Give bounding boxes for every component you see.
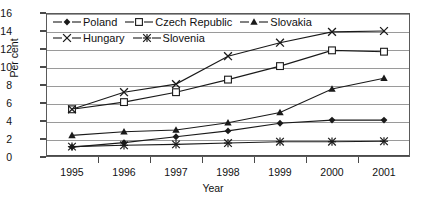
filled-diamond-marker [277, 120, 284, 127]
filled-diamond-marker [64, 19, 71, 26]
asterisk-marker [224, 139, 232, 147]
x-tick-label: 2001 [362, 166, 406, 178]
legend-item-poland[interactable]: Poland [52, 15, 124, 29]
open-square-marker [121, 99, 128, 106]
legend-item-hungary[interactable]: Hungary [52, 31, 132, 45]
filled-triangle-marker [251, 18, 258, 25]
x-tick-label: 1997 [154, 166, 198, 178]
x-tick-label: 2000 [310, 166, 354, 178]
asterisk-icon [132, 31, 162, 45]
x-tick-label: 1996 [102, 166, 146, 178]
x-tick-mark [98, 157, 99, 163]
legend-label: Poland [82, 16, 124, 28]
filled-diamond-marker [225, 128, 232, 135]
open-square-marker [136, 19, 143, 26]
series-slovenia [68, 137, 388, 151]
asterisk-marker [380, 137, 388, 145]
y-tick-label: 12 [0, 44, 12, 54]
filled-triangle-marker [276, 109, 283, 116]
filled-diamond-icon [52, 15, 82, 29]
y-tick-label: 2 [0, 134, 12, 144]
asterisk-marker [142, 34, 150, 42]
asterisk-marker [68, 143, 76, 151]
legend-item-czech-republic[interactable]: Czech Republic [124, 15, 239, 29]
legend-item-slovenia[interactable]: Slovenia [132, 31, 212, 45]
asterisk-marker [120, 141, 128, 149]
legend-item-slovakia[interactable]: Slovakia [239, 15, 319, 29]
legend-row: PolandCzech RepublicSlovakia [52, 14, 342, 30]
y-tick-label: 0 [0, 152, 12, 162]
open-square-icon [124, 15, 154, 29]
x-tick-label: 1999 [258, 166, 302, 178]
x-tick-mark [150, 157, 151, 163]
line-chart-figure: Per cent 0246810121416 19951996199719981… [0, 0, 426, 201]
x-tick-label: 1998 [206, 166, 250, 178]
open-square-marker [277, 63, 284, 70]
y-tick-label: 16 [0, 8, 12, 18]
legend-label: Slovakia [269, 16, 319, 28]
filled-diamond-marker [173, 133, 180, 140]
y-tick-label: 8 [0, 80, 12, 90]
legend-label: Slovenia [162, 32, 212, 44]
open-square-marker [173, 89, 180, 96]
series-line [72, 78, 384, 135]
open-square-marker [225, 76, 232, 83]
filled-diamond-marker [381, 117, 388, 124]
filled-triangle-icon [239, 15, 269, 29]
x-axis-title: Year [0, 182, 426, 194]
x-tick-label: 1995 [50, 166, 94, 178]
x-tick-mark [202, 157, 203, 163]
x-tick-mark [254, 157, 255, 163]
legend: PolandCzech RepublicSlovakiaHungarySlove… [52, 14, 342, 46]
cross-x-marker [63, 34, 71, 42]
cross-x-marker [224, 52, 232, 60]
legend-row: HungarySlovenia [52, 30, 342, 46]
open-square-marker [329, 47, 336, 54]
asterisk-marker [276, 138, 284, 146]
asterisk-marker [172, 140, 180, 148]
y-tick-label: 10 [0, 62, 12, 72]
y-tick-label: 6 [0, 98, 12, 108]
y-tick-label: 4 [0, 116, 12, 126]
x-tick-mark [358, 157, 359, 163]
legend-label: Hungary [82, 32, 132, 44]
cross-x-icon [52, 31, 82, 45]
asterisk-marker [328, 138, 336, 146]
x-tick-mark [306, 157, 307, 163]
y-tick-label: 14 [0, 26, 12, 36]
legend-label: Czech Republic [154, 16, 239, 28]
filled-diamond-marker [329, 117, 336, 124]
filled-triangle-marker [380, 74, 387, 81]
open-square-marker [381, 48, 388, 55]
